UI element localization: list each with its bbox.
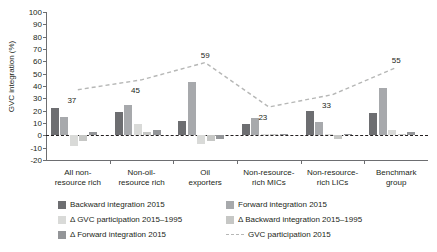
- legend-label: Backward integration 2015: [70, 200, 165, 209]
- bar-group: [242, 12, 288, 160]
- bar: [178, 121, 186, 136]
- y-tick-label: 40: [33, 82, 42, 91]
- y-tick-label: 50: [33, 69, 42, 78]
- bar: [344, 134, 352, 135]
- bar: [261, 134, 269, 135]
- legend-item[interactable]: Δ GVC participation 2015–1995: [58, 212, 226, 227]
- bar: [216, 135, 224, 139]
- legend-item[interactable]: Forward integration 2015: [226, 197, 416, 212]
- legend-color-swatch: [58, 231, 66, 239]
- bar: [134, 124, 142, 135]
- y-tick-label: 10: [33, 119, 42, 128]
- bar: [388, 130, 396, 135]
- y-tick-mark: [43, 160, 46, 161]
- bar: [334, 135, 342, 139]
- bar: [70, 135, 78, 146]
- bar: [398, 134, 406, 135]
- legend-item[interactable]: Backward integration 2015: [58, 197, 226, 212]
- line-point-label: 23: [258, 113, 267, 122]
- category-label-line: Benchmark: [358, 168, 434, 178]
- plot-area: 1009080706050403020100-10-20 37455923335…: [46, 12, 428, 160]
- bar: [379, 88, 387, 135]
- bar: [124, 105, 132, 136]
- bar: [280, 134, 288, 135]
- bar: [325, 134, 333, 135]
- line-point-label: 55: [392, 56, 401, 65]
- y-tick-label: 90: [33, 20, 42, 29]
- legend-label: GVC participation 2015: [248, 230, 331, 239]
- y-tick-label: -10: [30, 143, 42, 152]
- legend-label: Δ GVC participation 2015–1995: [70, 215, 182, 224]
- bar: [207, 135, 215, 141]
- y-axis-title: GVC integration (%): [7, 22, 16, 132]
- legend-dash-swatch: [226, 234, 244, 235]
- legend-color-swatch: [58, 201, 66, 209]
- category-separator: [301, 160, 302, 164]
- category-separator: [110, 160, 111, 164]
- bar: [51, 108, 59, 135]
- bar: [153, 130, 161, 135]
- gvc-integration-chart: GVC integration (%) 10090807060504030201…: [0, 0, 437, 252]
- y-tick-label: 60: [33, 57, 42, 66]
- bar: [188, 82, 196, 135]
- bar: [369, 113, 377, 135]
- legend-label: Δ Backward integration 2015–1995: [238, 215, 362, 224]
- legend-label: Δ Forward integration 2015: [70, 230, 166, 239]
- bar: [143, 132, 151, 136]
- bar: [270, 134, 278, 135]
- line-point-label: 59: [201, 51, 210, 60]
- y-tick-label: -20: [30, 156, 42, 165]
- y-tick-label: 30: [33, 94, 42, 103]
- line-point-label: 37: [67, 96, 76, 105]
- legend-item[interactable]: Δ Forward integration 2015: [58, 227, 226, 242]
- category-separator: [364, 160, 365, 164]
- category-label: Benchmarkgroup: [358, 168, 434, 187]
- category-separator: [237, 160, 238, 164]
- line-point-label: 45: [131, 86, 140, 95]
- line-point-label: 33: [322, 101, 331, 110]
- legend-color-swatch: [226, 201, 234, 209]
- y-tick-label: 100: [29, 8, 42, 17]
- legend-color-swatch: [226, 216, 234, 224]
- bar-group: [51, 12, 97, 160]
- bar: [306, 111, 314, 136]
- bar: [115, 112, 123, 135]
- category-label-line: group: [358, 178, 434, 188]
- bar: [315, 122, 323, 136]
- legend-item[interactable]: Δ Backward integration 2015–1995: [226, 212, 416, 227]
- bar-group: [178, 12, 224, 160]
- y-tick-label: 0: [38, 131, 42, 140]
- y-tick-label: 80: [33, 32, 42, 41]
- bar-group: [369, 12, 415, 160]
- bar: [60, 117, 68, 136]
- bar: [407, 132, 415, 136]
- legend-label: Forward integration 2015: [238, 200, 327, 209]
- legend-color-swatch: [58, 216, 66, 224]
- y-tick-label: 20: [33, 106, 42, 115]
- bar: [79, 135, 87, 141]
- legend-item[interactable]: GVC participation 2015: [226, 227, 416, 242]
- category-separator: [173, 160, 174, 164]
- bar-group: [306, 12, 352, 160]
- y-tick-label: 70: [33, 45, 42, 54]
- chart-legend: Backward integration 2015Forward integra…: [58, 197, 418, 242]
- bar: [242, 124, 250, 135]
- bar: [89, 132, 97, 136]
- bar: [197, 135, 205, 144]
